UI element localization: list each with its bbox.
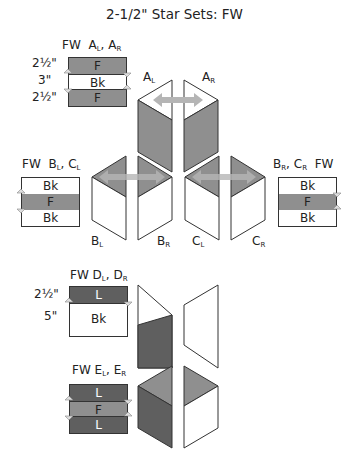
unit-sub: R [165, 241, 170, 249]
unit-sub: L [151, 77, 155, 85]
unit-letter: B [157, 234, 165, 248]
piece-label-b-left: BL [91, 234, 103, 249]
unit-sub: R [260, 241, 265, 249]
unit-letter: A [202, 70, 210, 84]
marker-icon [17, 69, 341, 420]
unit-letter: B [91, 234, 99, 248]
piece-d-right [184, 285, 218, 368]
unit-letter: A [143, 70, 151, 84]
piece-label-a-left: AL [143, 70, 155, 85]
unit-sub: L [200, 241, 204, 249]
unit-sub: L [99, 241, 103, 249]
piece-label-c-right: CR [252, 234, 265, 249]
piece-label-b-right: BR [157, 234, 170, 249]
pieces-diagram [0, 0, 349, 449]
piece-label-a-right: AR [202, 70, 215, 85]
unit-sub: R [210, 77, 215, 85]
piece-label-c-left: CL [192, 234, 204, 249]
